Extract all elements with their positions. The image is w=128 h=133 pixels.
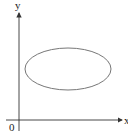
origin-label: 0 — [9, 121, 15, 133]
x-axis-label: x — [124, 114, 128, 126]
y-axis-label: y — [15, 0, 21, 11]
diagram-canvas: y x 0 — [0, 0, 128, 133]
ellipse-curve — [25, 48, 111, 90]
